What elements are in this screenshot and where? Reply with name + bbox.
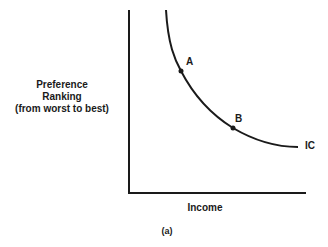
y-axis-label-line2: Ranking <box>0 91 124 103</box>
point-a-marker <box>179 69 184 74</box>
x-axis-label: Income <box>170 202 240 213</box>
point-a-label: A <box>186 56 193 67</box>
curve-label: IC <box>305 140 315 151</box>
point-b-label: B <box>235 113 242 124</box>
y-axis-label-line3: (from worst to best) <box>0 103 124 115</box>
y-axis-label-line1: Preference <box>0 79 124 91</box>
figure-caption: (a) <box>155 226 179 236</box>
point-b-marker <box>231 126 236 131</box>
y-axis-label: Preference Ranking (from worst to best) <box>0 79 124 115</box>
diagram-canvas <box>0 0 328 247</box>
